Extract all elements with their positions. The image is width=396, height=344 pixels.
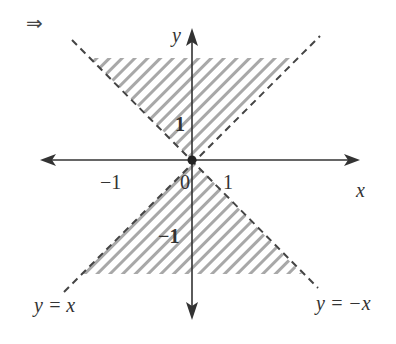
label-y-eq-neg-x: y = −x (314, 292, 371, 315)
origin-point (188, 156, 197, 165)
graph-canvas: ⇒ y x −1 0 1 1 −1 y = x y = −x (0, 0, 396, 344)
x-axis-label: x (355, 179, 365, 201)
tick-label-x-pos-1: 1 (223, 171, 233, 193)
tick-label-y-pos-1: 1 (175, 113, 185, 135)
label-y-eq-x: y = x (32, 294, 75, 317)
tick-label-x-neg-1: −1 (100, 171, 121, 193)
implication-symbol: ⇒ (26, 11, 43, 35)
tick-label-origin: 0 (180, 171, 190, 193)
upper-shaded-region (80, 58, 310, 160)
tick-label-y-neg-1: −1 (158, 225, 179, 247)
y-axis-label: y (170, 24, 181, 47)
